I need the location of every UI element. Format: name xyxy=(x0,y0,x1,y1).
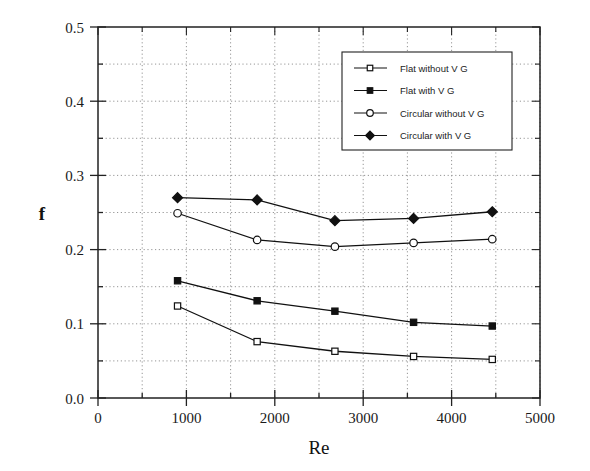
x-tick-label: 4000 xyxy=(437,410,467,426)
marker-open-square xyxy=(489,356,495,362)
y-tick-label: 0.4 xyxy=(65,94,84,110)
legend-label: Flat with V G xyxy=(400,85,454,96)
legend: Flat without V GFlat with V GCircular wi… xyxy=(342,52,512,150)
marker-filled-square xyxy=(367,88,373,94)
marker-filled-square xyxy=(489,323,495,329)
y-tick-label: 0.5 xyxy=(65,20,84,36)
legend-label: Circular without V G xyxy=(400,108,484,119)
x-tick-label: 3000 xyxy=(348,410,378,426)
marker-open-square xyxy=(174,303,180,309)
marker-filled-square xyxy=(174,278,180,284)
y-tick-label: 0.3 xyxy=(65,168,84,184)
line-chart: 0100020003000400050000.00.10.20.30.40.5R… xyxy=(0,0,590,471)
x-tick-label: 2000 xyxy=(260,410,290,426)
marker-open-square xyxy=(410,353,416,359)
marker-open-circle xyxy=(410,239,418,247)
x-tick-label: 5000 xyxy=(525,410,555,426)
marker-open-square xyxy=(367,65,373,71)
y-tick-label: 0.2 xyxy=(65,242,84,258)
marker-open-square xyxy=(254,338,260,344)
marker-open-square xyxy=(332,348,338,354)
x-tick-label: 0 xyxy=(94,410,102,426)
marker-open-circle xyxy=(489,235,497,243)
y-tick-label: 0.1 xyxy=(65,316,84,332)
y-axis-title: f xyxy=(39,203,46,224)
legend-label: Flat without V G xyxy=(400,63,468,74)
marker-filled-square xyxy=(332,308,338,314)
x-tick-label: 1000 xyxy=(171,410,201,426)
marker-open-circle xyxy=(174,209,182,217)
y-tick-label: 0.0 xyxy=(65,391,84,407)
figure-container: 0100020003000400050000.00.10.20.30.40.5R… xyxy=(0,0,590,471)
marker-open-circle xyxy=(253,236,261,244)
marker-open-circle xyxy=(331,243,339,251)
legend-label: Circular with V G xyxy=(400,130,471,141)
x-axis-title: Re xyxy=(308,437,329,458)
marker-filled-square xyxy=(410,319,416,325)
marker-filled-square xyxy=(254,298,260,304)
marker-open-circle xyxy=(367,110,374,117)
